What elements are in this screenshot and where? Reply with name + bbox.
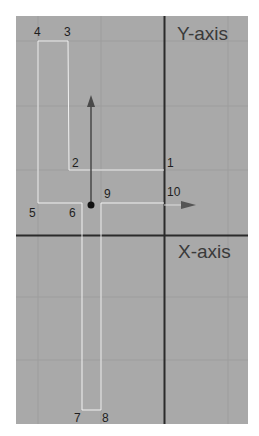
point-label-1: 1 — [167, 157, 174, 169]
point-label-6: 6 — [69, 207, 76, 219]
arrow-up-icon — [87, 95, 95, 107]
point-label-10: 10 — [167, 186, 180, 198]
y-axis-label: Y-axis — [177, 24, 228, 43]
x-axis-label: X-axis — [178, 242, 231, 261]
point-label-3: 3 — [64, 26, 71, 38]
point-label-4: 4 — [34, 26, 41, 38]
point-label-5: 5 — [29, 207, 36, 219]
point-label-8: 8 — [102, 412, 109, 424]
point-label-2: 2 — [72, 157, 79, 169]
point-label-9: 9 — [104, 188, 111, 200]
diagram-svg — [0, 0, 259, 436]
grid-lines — [16, 16, 248, 424]
arrow-right-icon — [181, 201, 196, 209]
point-label-7: 7 — [74, 412, 81, 424]
origin-dot — [88, 202, 95, 209]
